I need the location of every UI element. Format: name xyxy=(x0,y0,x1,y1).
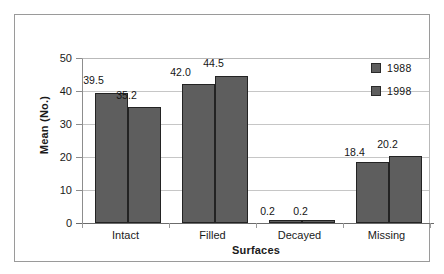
x-category-label-filled: Filled xyxy=(169,229,256,242)
legend-swatch-icon-1998 xyxy=(371,86,381,96)
chart-legend: 1988 1998 xyxy=(371,60,429,106)
x-axis-line xyxy=(76,223,434,224)
x-axis-title: Surfaces xyxy=(82,244,430,256)
x-category-label-missing: Missing xyxy=(343,229,430,242)
chart-figure-frame: Mean (No.) 50 40 30 20 10 0 39.5 35.2 42… xyxy=(14,14,430,262)
x-tick-mark-3 xyxy=(343,223,344,228)
legend-label-1998: 1998 xyxy=(387,86,412,97)
bar-value-decayed-1998: 0.2 xyxy=(284,206,317,217)
bar-filled-1998[interactable] xyxy=(215,76,248,223)
x-tick-mark-4 xyxy=(430,223,431,228)
legend-item-1988[interactable]: 1988 xyxy=(371,60,429,76)
legend-item-1998[interactable]: 1998 xyxy=(371,83,429,99)
y-tick-label-10: 10 xyxy=(46,185,72,195)
bar-missing-1988[interactable] xyxy=(356,162,389,223)
bar-value-filled-1988: 42.0 xyxy=(164,67,197,78)
bar-value-missing-1988: 18.4 xyxy=(338,147,371,158)
bar-value-missing-1998: 20.2 xyxy=(371,139,404,150)
y-tick-label-0: 0 xyxy=(46,218,72,228)
bar-value-filled-1998: 44.5 xyxy=(197,58,230,69)
bar-filled-1988[interactable] xyxy=(182,84,215,223)
y-tick-label-50: 50 xyxy=(46,53,72,63)
legend-swatch-icon-1988 xyxy=(371,63,381,73)
x-tick-mark-1 xyxy=(169,223,170,228)
y-tick-label-40: 40 xyxy=(46,86,72,96)
bar-value-decayed-1988: 0.2 xyxy=(251,206,284,217)
x-tick-mark-0 xyxy=(82,223,83,228)
x-category-label-decayed: Decayed xyxy=(256,229,343,242)
bar-missing-1998[interactable] xyxy=(389,156,422,223)
bar-intact-1998[interactable] xyxy=(128,107,161,223)
x-tick-mark-2 xyxy=(256,223,257,228)
x-category-label-intact: Intact xyxy=(82,229,169,242)
y-tick-label-20: 20 xyxy=(46,152,72,162)
y-tick-label-30: 30 xyxy=(46,119,72,129)
bar-intact-1988[interactable] xyxy=(95,93,128,223)
bar-value-intact-1988: 39.5 xyxy=(77,75,110,86)
legend-label-1988: 1988 xyxy=(387,63,412,74)
bar-value-intact-1998: 35.2 xyxy=(110,90,143,101)
